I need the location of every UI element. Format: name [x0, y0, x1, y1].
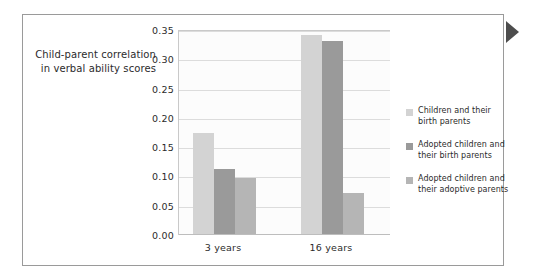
- axis-baseline: [179, 234, 390, 235]
- legend-item-label-line1: Children and their: [418, 106, 491, 117]
- legend-swatch-icon: [406, 109, 413, 116]
- x-axis-category-label: 3 years: [183, 242, 263, 253]
- bar: [214, 169, 235, 235]
- gridline: [179, 60, 390, 61]
- y-axis-tick-label: 0.35: [140, 25, 174, 36]
- bar: [193, 133, 214, 236]
- legend-item[interactable]: Adopted children andtheir birth parents: [406, 140, 510, 161]
- bar: [322, 41, 343, 235]
- right-triangle-marker-icon: [506, 21, 519, 43]
- legend-item-label-line1: Adopted children and: [418, 140, 505, 151]
- y-axis-tick-label: 0.05: [140, 200, 174, 211]
- y-axis-tick-label: 0.25: [140, 83, 174, 94]
- y-axis-tick-label: 0.20: [140, 112, 174, 123]
- legend-item-label-line1: Adopted children and: [418, 174, 508, 185]
- y-axis-title: Child-parent correlation in verbal abili…: [8, 48, 156, 75]
- x-axis-category-label: 16 years: [291, 242, 371, 253]
- y-axis-tick-labels: 0.000.050.100.150.200.250.300.35: [138, 30, 174, 235]
- y-axis-tick-label: 0.10: [140, 171, 174, 182]
- legend-item[interactable]: Adopted children andtheir adoptive paren…: [406, 174, 510, 195]
- legend-item-label: Children and theirbirth parents: [418, 106, 491, 127]
- legend-swatch-icon: [406, 177, 413, 184]
- legend-item[interactable]: Children and theirbirth parents: [406, 106, 510, 127]
- legend-item-label: Adopted children andtheir adoptive paren…: [418, 174, 508, 195]
- gridline: [179, 119, 390, 120]
- chart-legend: Children and theirbirth parentsAdopted c…: [406, 106, 510, 208]
- bar: [343, 193, 364, 235]
- legend-item-label: Adopted children andtheir birth parents: [418, 140, 505, 161]
- plot-area: [178, 30, 390, 235]
- legend-item-label-line2: their birth parents: [418, 151, 505, 162]
- y-axis-tick-label: 0.30: [140, 54, 174, 65]
- gridline: [179, 90, 390, 91]
- y-axis-tick-label: 0.00: [140, 230, 174, 241]
- y-axis-title-line1: Child-parent correlation: [8, 48, 156, 62]
- legend-item-label-line2: their adoptive parents: [418, 185, 508, 196]
- legend-swatch-icon: [406, 143, 413, 150]
- legend-item-label-line2: birth parents: [418, 117, 491, 128]
- y-axis-tick-label: 0.15: [140, 142, 174, 153]
- gridline: [179, 31, 390, 32]
- bar: [235, 178, 256, 235]
- bar: [301, 35, 322, 235]
- y-axis-title-line2: in verbal ability scores: [8, 62, 156, 76]
